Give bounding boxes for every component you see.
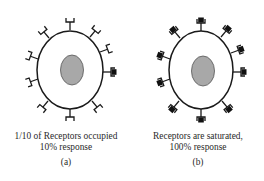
occupied-receptor-icon	[230, 45, 245, 57]
caption-line1-b: Receptors are saturated,	[132, 131, 264, 142]
cell-diagram-a	[0, 0, 132, 130]
occupied-receptor-icon	[197, 18, 205, 32]
panel-label-b: (b)	[132, 157, 264, 167]
cup-receptor-icon	[66, 109, 74, 121]
caption-line2-b: 100% response	[132, 142, 264, 153]
cup-receptor-icon	[66, 18, 74, 30]
caption-line2-a: 10% response	[0, 142, 132, 153]
nucleus-icon	[61, 55, 84, 85]
nucleus-icon	[192, 56, 215, 86]
occupied-receptor-icon	[167, 98, 182, 113]
occupied-receptor-icon	[218, 24, 233, 39]
occupied-receptor-icon	[233, 68, 247, 76]
occupied-receptor-icon	[103, 68, 117, 76]
occupied-receptor-icon	[168, 25, 183, 40]
cell-diagram-b	[132, 0, 264, 130]
panel-b: Receptors are saturated, 100% response (…	[132, 0, 264, 181]
caption-line1-a: 1/10 of Receptors occupied	[0, 131, 132, 142]
panel-a: 1/10 of Receptors occupied 10% response …	[0, 0, 132, 181]
occupied-receptor-icon	[197, 109, 205, 123]
panel-label-a: (a)	[0, 157, 132, 167]
